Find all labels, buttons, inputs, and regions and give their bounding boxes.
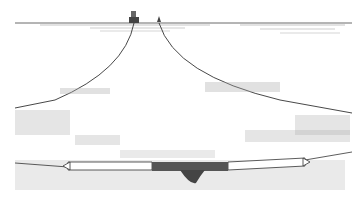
boat-icon (129, 11, 139, 23)
tow-lines (15, 23, 352, 113)
buoy-icon (157, 16, 161, 22)
sea-surface (15, 23, 352, 33)
trawl-illustration (0, 0, 364, 205)
seabed-stipple (15, 82, 350, 190)
